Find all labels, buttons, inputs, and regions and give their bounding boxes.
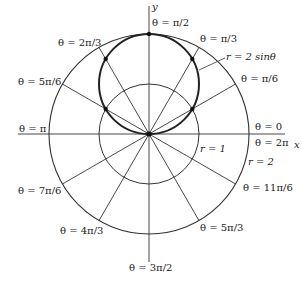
- label-theta-2pi-over-3: θ = 2π/3: [58, 38, 101, 48]
- label-theta-7pi-over-6: θ = 7π/6: [18, 186, 61, 196]
- label-theta-pi-over-6: θ = π/6: [241, 74, 278, 84]
- label-curve: r = 2 sinθ: [226, 52, 276, 62]
- label-theta-2pi: θ = 2π: [255, 138, 289, 148]
- label-theta-pi: θ = π: [19, 124, 46, 134]
- x-axis-label: x: [294, 140, 300, 150]
- label-theta-11pi-over-6: θ = 11π/6: [243, 183, 293, 193]
- label-theta-0: θ = 0: [255, 122, 282, 132]
- label-theta-pi-over-3: θ = π/3: [200, 34, 237, 44]
- y-axis-label: y: [152, 2, 158, 12]
- label-theta-pi-over-2: θ = π/2: [152, 18, 189, 28]
- label-theta-5pi-over-3: θ = 5π/3: [200, 223, 243, 233]
- label-theta-5pi-over-6: θ = 5π/6: [18, 77, 61, 87]
- label-r1: r = 1: [200, 144, 226, 154]
- label-theta-4pi-over-3: θ = 4π/3: [60, 226, 103, 236]
- label-r2: r = 2: [248, 157, 274, 167]
- label-theta-3pi-over-2: θ = 3π/2: [129, 263, 172, 273]
